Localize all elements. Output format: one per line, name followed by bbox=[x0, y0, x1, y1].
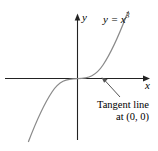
tangent-line-annotation: Tangent line at (0, 0) bbox=[8, 99, 149, 124]
axis-label-x: x bbox=[145, 80, 150, 91]
y-axis-arrowhead bbox=[75, 14, 81, 21]
curve-equation-label: y = x3 bbox=[103, 12, 129, 25]
axis-label-y: y bbox=[82, 12, 87, 23]
annotation-leader-line bbox=[104, 80, 120, 98]
curve-equation-exponent: 3 bbox=[126, 11, 130, 20]
annotation-line-2: at (0, 0) bbox=[8, 111, 149, 123]
annotation-line-1: Tangent line bbox=[97, 99, 149, 110]
tangent-line-figure: y x y = x3 Tangent line at (0, 0) bbox=[0, 0, 158, 151]
cubic-plot-svg bbox=[0, 0, 158, 151]
curve-equation-base: y = x bbox=[103, 13, 126, 25]
